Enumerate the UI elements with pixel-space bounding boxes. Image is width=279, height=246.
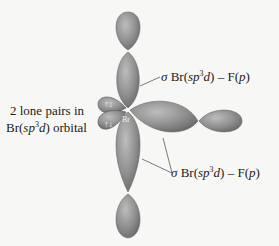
leader-line-bottom [142,159,172,173]
right-bond-hybrid-lobe [130,101,198,132]
electron-pair-arrows-upper: ↑↓ [104,97,113,112]
central-atom-label: Br [122,112,130,127]
lone-pairs-label-line1: 2 lone pairs in [10,103,84,118]
sigma-bond-label-bottom: σ Br(sp3d) – F(p) [171,165,260,180]
electron-pair-arrows-lower: ↑↓ [104,117,113,132]
sigma-bond-label-top: σ Br(sp3d) – F(p) [161,69,250,84]
bottom-fluorine-p-lobe [116,194,140,238]
right-fluorine-p-lobe [199,110,242,132]
top-fluorine-p-lobe [116,12,140,50]
lone-pairs-label-line2: Br(sp3d) orbital [6,120,87,135]
leader-line-top [140,77,160,86]
top-bond-hybrid-lobe [117,52,140,108]
